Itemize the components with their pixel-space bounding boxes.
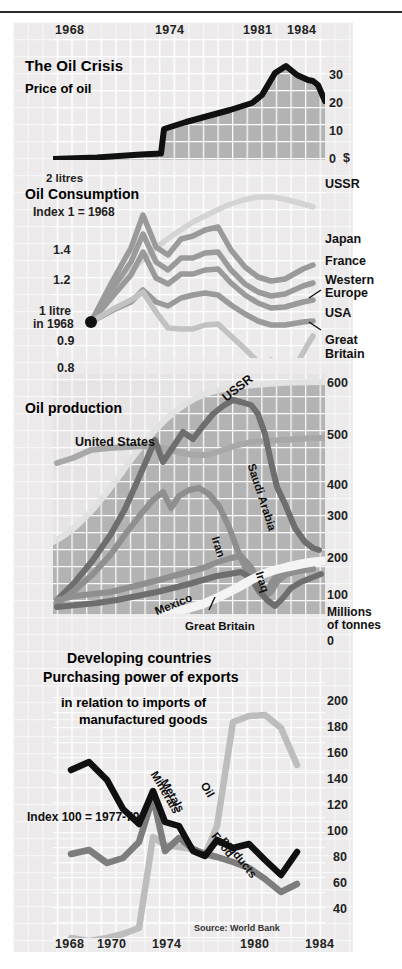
panel2-origin-label-line2: in 1968	[33, 318, 74, 331]
top-axis-year-1974: 1974	[155, 24, 184, 37]
panel3-ytick-0: 0	[327, 635, 334, 648]
panel4-sub-line2: manufactured goods	[79, 713, 208, 727]
panel3-title: Oil production	[25, 401, 122, 416]
panel1-title: The Oil Crisis	[25, 58, 123, 74]
panel4-ytick-120: 120	[327, 799, 348, 812]
panel3-ytick-500: 500	[327, 429, 348, 442]
panel1-ytick-0: 0	[329, 153, 336, 166]
panel2-label-france: France	[325, 255, 366, 268]
panel2-ytick-14: 1.4	[53, 244, 70, 257]
panel4-title-line1: Developing countries	[67, 651, 211, 666]
panel2-label-usa: USA	[325, 307, 351, 320]
source-note: Source: World Bank	[194, 924, 280, 933]
panel4-ytick-160: 160	[327, 747, 348, 760]
panel4-sub-line1: in relation to imports of	[61, 696, 206, 710]
panel2-ytick-08: 0.8	[57, 362, 74, 375]
panel-oil-consumption	[53, 172, 325, 374]
bottom-axis-year-1980: 1980	[240, 938, 269, 951]
panel4-ytick-40: 40	[333, 903, 347, 916]
bottom-axis-year-1984: 1984	[305, 938, 334, 951]
panel2-origin-label-line1: 1 litre	[39, 305, 71, 318]
panel2-ytick-12: 1.2	[53, 274, 70, 287]
panel4-ytick-180: 180	[327, 721, 348, 734]
top-axis-year-1984: 1984	[287, 24, 316, 37]
top-axis-year-1968: 1968	[55, 24, 84, 37]
panel1-subtitle: Price of oil	[25, 82, 91, 96]
panel1-ytick-20: 20	[329, 97, 343, 110]
panel1-ytick-30: 30	[329, 69, 343, 82]
panel1-ytick-10: 10	[329, 125, 343, 138]
panel2-index-note: Index 1 = 1968	[33, 206, 115, 219]
chart-canvas: 1968 1974 1981 1984 The Oil Crisis Price…	[13, 22, 353, 952]
header-rule	[0, 11, 402, 13]
panel2-title: Oil Consumption	[25, 187, 139, 202]
panel3-ytick-400: 400	[327, 479, 348, 492]
panel4-ytick-200: 200	[327, 695, 348, 708]
panel3-unit-line1: Millions	[327, 606, 372, 619]
panel3-ytick-100: 100	[327, 589, 348, 602]
panel3-unit-line2: of tonnes	[327, 619, 381, 632]
consumption-origin-dot	[85, 316, 97, 328]
panel2-label-britain: Britain	[325, 348, 365, 361]
panel3-ytick-600: 600	[327, 377, 348, 390]
panel3-label-great-britain: Great Britain	[185, 620, 255, 632]
panel2-label-great: Great	[325, 334, 358, 347]
infographic-page: 1968 1974 1981 1984 The Oil Crisis Price…	[0, 0, 402, 969]
panel-purchasing-power	[53, 670, 325, 941]
panel4-ytick-140: 140	[327, 773, 348, 786]
top-axis-year-1981: 1981	[243, 24, 272, 37]
panel2-top-label: 2 litres	[46, 172, 83, 184]
panel3-ytick-200: 200	[327, 552, 348, 565]
panel4-ytick-60: 60	[333, 877, 347, 890]
panel4-ytick-80: 80	[333, 851, 347, 864]
panel2-label-europe: Europe	[325, 287, 368, 300]
bottom-axis-year-1970: 1970	[97, 938, 126, 951]
panel4-title-line2: Purchasing power of exports	[43, 670, 239, 685]
panel2-ytick-09: 0.9	[57, 335, 74, 348]
panel3-ytick-300: 300	[327, 510, 348, 523]
panel4-index-note: Index 100 = 1977-79	[27, 811, 139, 824]
panel1-unit-dollar: $	[343, 152, 350, 165]
panel2-label-ussr: USSR	[325, 178, 360, 191]
panel3-label-united-states: United States	[75, 436, 155, 449]
bottom-axis-year-1968: 1968	[55, 938, 84, 951]
bottom-axis-year-1974: 1974	[152, 938, 181, 951]
panel2-label-japan: Japan	[325, 233, 361, 246]
panel4-ytick-100: 100	[327, 825, 348, 838]
